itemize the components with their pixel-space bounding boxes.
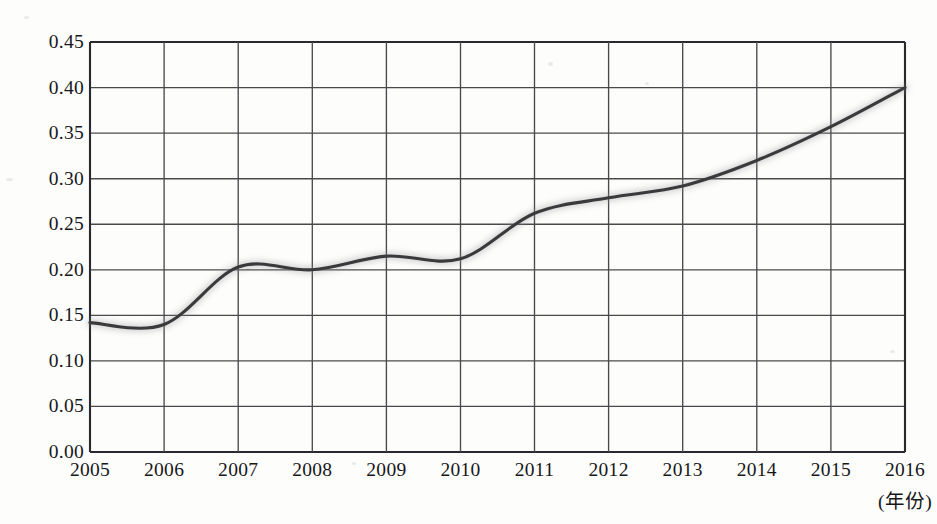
- xtick-label: 2008: [272, 459, 352, 481]
- x-axis-unit-label: (年份): [860, 485, 937, 514]
- ytick-label: 0.40: [22, 77, 84, 99]
- horizontal-gridlines: [90, 42, 905, 452]
- chart-container: 0.45 0.40 0.35 0.30 0.25 0.20 0.15 0.10 …: [0, 0, 937, 524]
- xtick-label: 2007: [198, 459, 278, 481]
- ytick-label: 0.25: [22, 213, 84, 235]
- xtick-label: 2012: [569, 459, 649, 481]
- xtick-label: 2006: [124, 459, 204, 481]
- xtick-label: 2016: [865, 459, 937, 481]
- ytick-label: 0.35: [22, 122, 84, 144]
- xtick-label: 2014: [717, 459, 797, 481]
- ytick-label: 0.10: [22, 350, 84, 372]
- ytick-label: 0.15: [22, 304, 84, 326]
- xtick-label: 2010: [421, 459, 501, 481]
- vertical-gridlines: [90, 42, 905, 452]
- xtick-label: 2011: [495, 459, 575, 481]
- xtick-label: 2015: [791, 459, 871, 481]
- xtick-label: 2009: [346, 459, 426, 481]
- ytick-label: 0.20: [22, 259, 84, 281]
- ytick-label: 0.05: [22, 395, 84, 417]
- ytick-label: 0.45: [22, 31, 84, 53]
- line-chart-svg: [0, 0, 937, 524]
- ytick-label: 0.30: [22, 168, 84, 190]
- xtick-label: 2013: [643, 459, 723, 481]
- data-series-line: [90, 88, 905, 329]
- xtick-label: 2005: [50, 459, 130, 481]
